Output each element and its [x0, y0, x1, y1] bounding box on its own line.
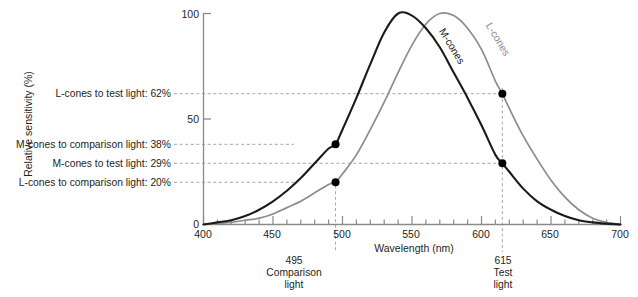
- x-tick-labels: 400 450 500 550 600 650 700: [194, 228, 629, 240]
- x-tick-label-400: 400: [194, 228, 212, 240]
- x-tick-label-450: 450: [263, 228, 281, 240]
- test-value: 615: [494, 255, 511, 266]
- data-point-markers: [332, 90, 507, 187]
- y-tick-labels: 100 50 0: [181, 8, 199, 231]
- annotation-m-cones-test: M-cones to test light: 29%: [53, 158, 171, 169]
- test-label-line1: Test: [494, 267, 513, 278]
- annotation-l-cones-test: L-cones to test light: 62%: [55, 88, 171, 99]
- cone-sensitivity-chart: 100 50 0 400 450 500 550 600 650 700 Wav…: [0, 0, 638, 297]
- marker-l-cones-test: [498, 90, 506, 98]
- y-axis-title: Relative sensitivity (%): [22, 71, 34, 177]
- comparison-light-caption: 495 Comparison light: [266, 255, 322, 290]
- marker-l-cones-comparison: [332, 178, 340, 186]
- annotation-m-cones-comparison: M-cones to comparison light: 38%: [16, 139, 171, 150]
- y-tick-label-50: 50: [187, 113, 199, 125]
- test-label-line2: light: [494, 279, 513, 290]
- y-axis-ticks: [204, 14, 212, 225]
- m-cones-curve-label: M-cones: [437, 26, 467, 66]
- marker-m-cones-test: [498, 159, 506, 167]
- annotation-l-cones-comparison: L-cones to comparison light: 20%: [19, 177, 171, 188]
- comparison-value: 495: [285, 255, 302, 266]
- test-light-caption: 615 Test light: [494, 255, 513, 290]
- x-tick-label-650: 650: [541, 228, 559, 240]
- x-tick-label-700: 700: [611, 228, 629, 240]
- annotation-labels: L-cones to test light: 62% M-cones to co…: [16, 88, 171, 188]
- x-axis-title: Wavelength (nm): [374, 242, 454, 254]
- x-tick-label-600: 600: [472, 228, 490, 240]
- comparison-label-line2: light: [285, 279, 304, 290]
- l-cones-curve-label: L-cones: [484, 21, 512, 58]
- y-tick-label-100: 100: [181, 8, 199, 20]
- chart-svg: 100 50 0 400 450 500 550 600 650 700 Wav…: [0, 0, 638, 297]
- comparison-label-line1: Comparison: [266, 267, 322, 278]
- x-tick-label-550: 550: [402, 228, 420, 240]
- marker-m-cones-comparison: [332, 140, 340, 148]
- x-axis-ticks: [204, 216, 621, 225]
- l-cones-curve: [204, 13, 621, 225]
- x-tick-label-500: 500: [333, 228, 351, 240]
